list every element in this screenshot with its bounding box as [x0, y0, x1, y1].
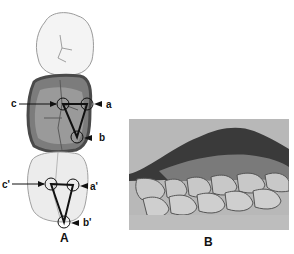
dental-cast-image [129, 119, 289, 230]
panel-b-cast-photo [129, 119, 289, 230]
label-a: a [106, 100, 112, 110]
caption-a: A [60, 231, 69, 245]
label-c: c [11, 99, 17, 109]
panel-a-occlusal-diagram: c a b c' a' b' A [0, 0, 128, 254]
caption-b: B [204, 235, 213, 249]
label-b: b [99, 133, 105, 143]
label-c-prime: c' [2, 180, 10, 190]
label-a-prime: a' [90, 182, 98, 192]
teeth-illustration [0, 0, 128, 254]
label-b-prime: b' [83, 218, 92, 228]
